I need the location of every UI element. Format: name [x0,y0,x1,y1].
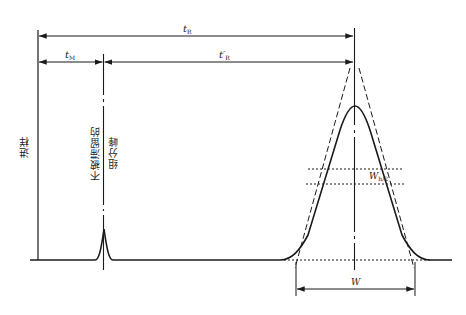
dead-time-label: tM [65,50,75,61]
adjusted-retention-time-subscript: R [225,54,230,61]
dead-time-subscript: M [69,54,75,61]
half-height-width-symbol: W [369,171,378,181]
retention-time-label: tR [183,24,192,35]
unretained-label-line2: 组分峰 [108,136,120,169]
half-height-width-label: Wh/2 [369,172,388,182]
right-tangent-line [359,68,414,268]
retention-time-subscript: R [187,28,192,35]
adjusted-retention-time-label: t′R [219,50,230,61]
injection-label: 进样 [19,136,31,158]
half-height-width-subscript: h/2 [378,175,388,182]
left-tangent-line [295,68,350,268]
peak-width-label: W [351,278,360,287]
unretained-label-line1: 不被滞留的 [90,126,102,181]
chromatogram-diagram [0,0,466,315]
peak-width-symbol: W [351,277,360,287]
